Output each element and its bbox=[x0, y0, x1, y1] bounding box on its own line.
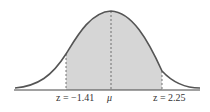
label-z-right: z = 2.25 bbox=[153, 92, 186, 103]
label-z-left: z = −1.41 bbox=[56, 92, 94, 103]
label-mu: μ bbox=[107, 92, 112, 103]
shaded-area bbox=[66, 11, 162, 90]
